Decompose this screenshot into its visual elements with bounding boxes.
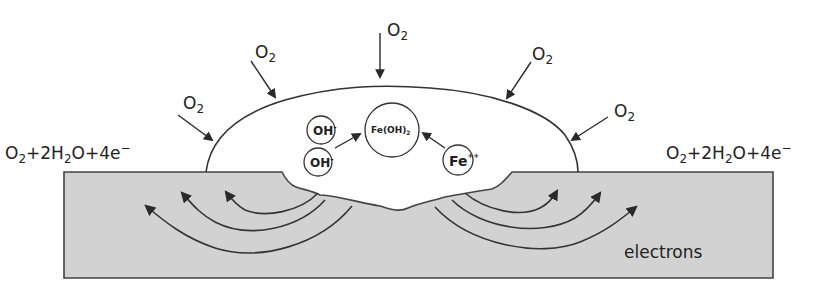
o2-label-3: O2 — [387, 20, 408, 43]
oh-ion-2: OH- — [304, 148, 334, 176]
fe-to-fe-oh-2-arrow — [423, 133, 445, 148]
svg-text:Fe(OH)2: Fe(OH)2 — [371, 125, 410, 136]
o2-label-5: O2 — [614, 101, 635, 124]
svg-text:OH-: OH- — [310, 155, 334, 170]
o2-arrow-5 — [572, 117, 608, 140]
o2-label-1: O2 — [183, 93, 204, 116]
o2-label-2: O2 — [255, 42, 276, 65]
o2-label-4: O2 — [532, 44, 553, 67]
ferrous-ion: Fe++ — [443, 145, 479, 175]
iron-hydroxide-precipitate: Fe(OH)2 — [365, 103, 419, 157]
svg-text:Fe++: Fe++ — [449, 152, 479, 169]
corrosion-diagram: O2 O2 O2 O2 O2 O2+2H2O+4e− O2+2H2O+4e− O… — [0, 0, 839, 295]
oh-to-fe-oh-2-arrow — [335, 134, 360, 148]
cathodic-reaction-left: O2+2H2O+4e− — [5, 141, 130, 166]
o2-arrow-4 — [507, 62, 531, 98]
o2-arrow-1 — [178, 115, 212, 140]
svg-text:OH-: OH- — [313, 123, 337, 138]
cathodic-reaction-right: O2+2H2O+4e− — [666, 141, 791, 166]
o2-arrow-2 — [251, 61, 275, 97]
oh-ion-1: OH- — [307, 116, 337, 144]
electrons-label: electrons — [624, 242, 702, 262]
